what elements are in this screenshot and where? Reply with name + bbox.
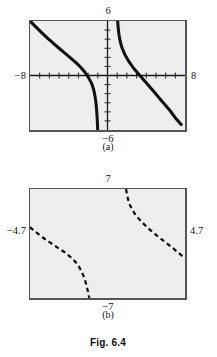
panel-b-sublabel: (b) [102,310,114,320]
figure-6-4: 6 −8 8 −6 [0,0,217,357]
panel-b-xmin-label: −4.7 [0,226,26,237]
panel-b-xmax-label: 4.7 [190,226,216,237]
panel-b-curve-right [126,189,185,258]
figure-caption: Fig. 6.4 [90,338,126,348]
panel-a-ymax-label: 6 [105,6,110,17]
panel-a-xmax-label: 8 [191,71,215,82]
panel-b-graph [30,189,185,298]
panel-b-curve-left [30,227,89,298]
panel-b-plot-area [29,188,187,300]
panel-a-graph [30,21,185,130]
panel-a-sublabel: (a) [102,142,113,152]
panel-b-ymax-label: 7 [105,174,110,185]
panel-a-plot-area [29,20,187,132]
panel-a-xmin-label: −8 [2,71,26,82]
